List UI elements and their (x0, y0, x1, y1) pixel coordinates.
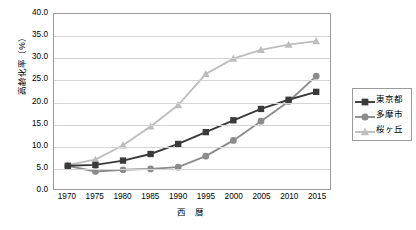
gridline (54, 169, 330, 170)
data-point-marker (203, 129, 209, 135)
data-point-marker (230, 137, 237, 144)
gridline (54, 58, 330, 59)
y-axis-tick-labels: 0.05.010.015.020.025.030.035.040.0 (14, 0, 48, 230)
legend-item-2: 多摩市 (354, 107, 409, 122)
data-point-marker (147, 151, 153, 157)
data-point-marker (313, 89, 319, 95)
y-tick-label: 25.0 (16, 75, 48, 83)
gridline (54, 80, 330, 81)
y-tick-label: 40.0 (16, 9, 48, 17)
data-point-marker (230, 117, 236, 123)
y-tick-label: 20.0 (16, 98, 48, 106)
y-tick-label: 35.0 (16, 31, 48, 39)
data-point-marker (202, 70, 210, 77)
legend-swatch-circle-icon (354, 109, 376, 121)
gridline (54, 125, 330, 126)
legend-swatch-square-icon (354, 94, 376, 106)
y-tick-label: 15.0 (16, 120, 48, 128)
data-point-marker (258, 106, 264, 112)
aging-rate-line-chart: 高齢化率（%） 0.05.010.015.020.025.030.035.040… (0, 0, 416, 230)
legend: 東京都多摩市桜ヶ丘 (352, 88, 412, 141)
legend-label: 東京都 (376, 95, 403, 104)
data-point-marker (313, 73, 320, 80)
legend-item-1: 東京都 (354, 92, 409, 107)
y-tick-label: 5.0 (16, 164, 48, 172)
legend-item-3: 桜ヶ丘 (354, 122, 409, 137)
legend-label: 桜ヶ丘 (376, 125, 403, 134)
data-point-marker (120, 157, 126, 163)
y-tick-label: 0.0 (16, 186, 48, 194)
series-square (65, 89, 320, 169)
legend-label: 多摩市 (376, 110, 403, 119)
gridline (54, 103, 330, 104)
gridline (54, 147, 330, 148)
series-layer (54, 14, 330, 189)
y-tick-label: 30.0 (16, 53, 48, 61)
gridline (54, 36, 330, 37)
plot-area (53, 13, 331, 190)
x-tick-label: 2015 (297, 193, 337, 201)
data-point-marker (202, 153, 209, 160)
data-point-marker (258, 118, 265, 125)
data-point-marker (92, 162, 98, 168)
x-axis-title: 西 暦 (53, 205, 331, 217)
y-tick-label: 10.0 (16, 142, 48, 150)
legend-swatch-triangle-icon (354, 124, 376, 136)
